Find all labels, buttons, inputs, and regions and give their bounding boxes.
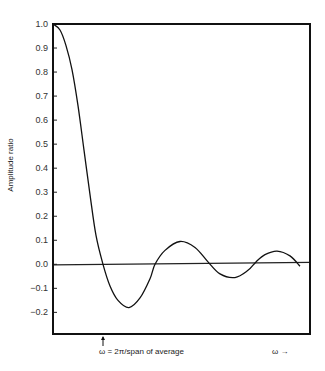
y-tick-label: 0.0 [35,259,48,269]
amplitude-ratio-chart: 1.00.90.80.70.60.50.40.30.20.10.0−0.1−0.… [0,0,325,371]
omega-marker-arrow [101,336,105,346]
y-tick-label: −0.1 [30,283,48,293]
plot-frame [53,24,310,334]
omega-axis-arrow-label: ω → [272,347,288,356]
y-tick-label: 0.5 [35,139,48,149]
amplitude-curve [53,24,300,308]
y-tick-label: 0.7 [35,91,48,101]
y-tick-label: 0.8 [35,67,48,77]
y-tick-label: 0.3 [35,187,48,197]
y-tick-label: 1.0 [35,19,48,29]
y-tick-label: 0.9 [35,43,48,53]
y-tick-label: −0.2 [30,307,48,317]
arrow-head-icon [101,336,105,340]
y-tick-label: 0.1 [35,235,48,245]
y-tick-label: 0.6 [35,115,48,125]
y-tick-label: 0.4 [35,163,48,173]
zero-reference-line [53,262,310,265]
y-tick-label: 0.2 [35,211,48,221]
omega-annotation: ω = 2π/span of average [99,347,184,356]
y-axis-label: Amplitude ratio [6,138,15,192]
